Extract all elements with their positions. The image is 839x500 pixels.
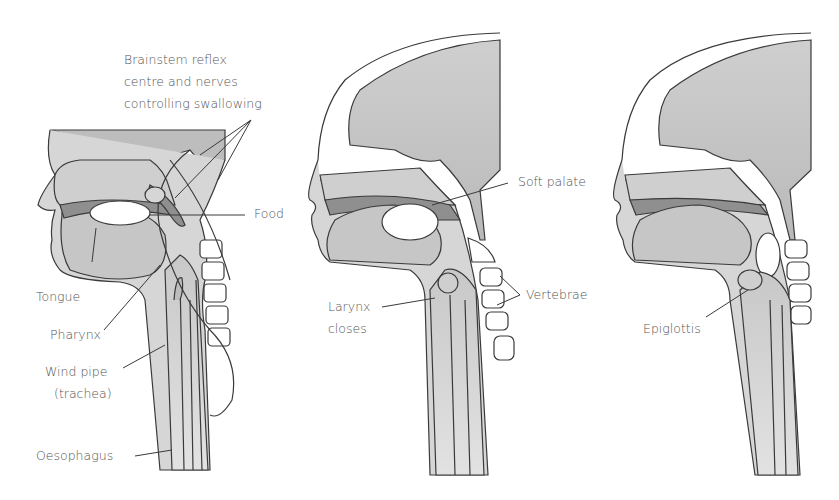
panel-2-anatomy (309, 33, 514, 475)
swallowing-diagram: Brainstem reflex centre and nerves contr… (0, 0, 839, 500)
label-windpipe-line1: Wind pipe (45, 362, 107, 382)
label-brainstem-line3: controlling swallowing (124, 94, 262, 114)
label-pharynx: Pharynx (50, 325, 101, 345)
label-brainstem-line1: Brainstem reflex (124, 50, 227, 70)
label-epiglottis: Epiglottis (643, 319, 701, 339)
label-food: Food (254, 204, 284, 224)
label-larynx-line2: closes (328, 319, 367, 339)
label-vertebrae: Vertebrae (526, 285, 587, 305)
label-windpipe-line2: (trachea) (54, 384, 112, 404)
label-brainstem-line2: centre and nerves (124, 72, 238, 92)
label-oesophagus: Oesophagus (36, 446, 113, 466)
label-larynx-line1: Larynx (328, 297, 370, 317)
panel-3-anatomy (614, 33, 811, 475)
label-tongue: Tongue (36, 287, 80, 307)
label-soft-palate: Soft palate (518, 172, 586, 192)
